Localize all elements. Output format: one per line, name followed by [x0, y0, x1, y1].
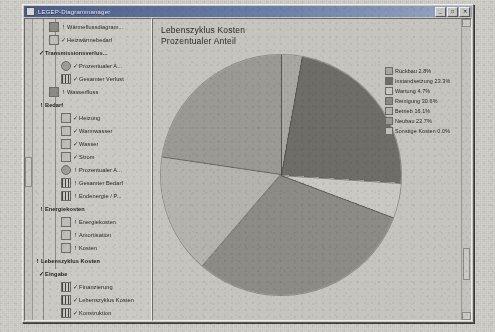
tree-item-label: Amortisation	[79, 232, 111, 238]
tree-body: !Wärmeflussdiagram...✓Heizwärmebedarf✓Tr…	[33, 19, 151, 320]
tree-item-label: Bedarf	[45, 102, 63, 108]
tree-item[interactable]: ✓Heizwärmebedarf	[33, 33, 151, 46]
tree-item-label: Kosten	[79, 245, 97, 251]
tree-scrollbar-thumb[interactable]	[25, 157, 32, 186]
tree-item[interactable]: ✓Finanzierung	[33, 280, 151, 293]
pie-icon	[61, 61, 71, 71]
chart-title-line2: Prozentualer Anteil	[161, 36, 245, 47]
tree-item[interactable]: !Energiekosten	[33, 215, 151, 228]
check-icon: ✓	[73, 62, 78, 69]
curve-icon	[49, 35, 59, 45]
bars-icon	[61, 308, 71, 318]
scroll-up-arrow-icon[interactable]	[462, 19, 471, 27]
tree-item[interactable]: ✓Eingabe	[33, 267, 151, 280]
pie-icon	[61, 165, 71, 175]
legend-swatch	[385, 107, 393, 115]
chart-scrollbar-thumb[interactable]	[463, 248, 470, 280]
exclamation-icon: !	[61, 89, 66, 95]
tree-item-label: Lebenszyklus Kosten	[79, 297, 134, 303]
tree-item-label: Wasser	[79, 141, 98, 147]
exclamation-icon: !	[73, 180, 78, 186]
diagram-tree-panel: !Wärmeflussdiagram...✓Heizwärmebedarf✓Tr…	[24, 18, 152, 321]
legend-label: Rückbau 2.8%	[395, 68, 431, 74]
legend-label: Neubau 22.7%	[395, 118, 432, 124]
legend-swatch	[385, 127, 393, 135]
tree-item[interactable]: ✓Transmissionsverlus...	[33, 46, 151, 59]
chart-vertical-scrollbar[interactable]	[461, 19, 471, 320]
tree-item-label: Heizwärmebedarf	[67, 37, 112, 43]
tree-item-label: Energiekosten	[79, 219, 116, 225]
legend-item: Rückbau 2.8%	[385, 66, 465, 75]
legend-label: Betrieb 16.1%	[395, 108, 430, 114]
check-icon: ✓	[73, 153, 78, 160]
legend-label: Wartung 4.7%	[395, 88, 430, 94]
exclamation-icon: !	[61, 24, 66, 30]
tree-item[interactable]: ✓Gesamter Verlust	[33, 72, 151, 85]
window-controls: _ □ ✕	[435, 7, 470, 17]
tree-item[interactable]: !Prozentualer A...	[33, 163, 151, 176]
tree-item-label: Endenergie / P...	[79, 193, 122, 199]
tree-item[interactable]: !Energiekosten	[33, 202, 151, 215]
check-icon: ✓	[73, 114, 78, 121]
tree-item[interactable]: ✓Jährliche Kosten	[33, 319, 151, 320]
application-window: LEGEP-Diagrammanager _ □ ✕ !Wärmeflussdi…	[22, 4, 474, 323]
maximize-button[interactable]: □	[447, 7, 458, 17]
tree-item[interactable]: ✓Wasser	[33, 137, 151, 150]
minimize-button[interactable]: _	[435, 7, 446, 17]
tree-vertical-scrollbar[interactable]	[25, 19, 33, 320]
check-icon: ✓	[73, 140, 78, 147]
chart-legend: Rückbau 2.8%Instandsetzung 23.3%Wartung …	[385, 66, 465, 135]
bar-icon	[61, 191, 71, 201]
tree-item[interactable]: ✓Warmwasser	[33, 124, 151, 137]
scroll-down-arrow-icon[interactable]	[462, 312, 471, 320]
exclamation-icon: !	[73, 193, 78, 199]
legend-swatch	[385, 67, 393, 75]
tree-item-label: Wasserfluss	[67, 89, 98, 95]
legend-item: Sonstige Kosten 0.0%	[385, 126, 465, 135]
tree-item[interactable]: ✓Konstruktion	[33, 306, 151, 319]
tree-item-label: Prozentualer A...	[79, 63, 122, 69]
curve-icon	[61, 243, 71, 253]
tree-item[interactable]: !Kosten	[33, 241, 151, 254]
check-icon: ✓	[73, 296, 78, 303]
tree-item[interactable]: ✓Prozentualer A...	[33, 59, 151, 72]
close-button[interactable]: ✕	[459, 7, 470, 17]
tree-item-label: Energiekosten	[45, 206, 85, 212]
pie-chart	[161, 55, 409, 303]
tree-item[interactable]: !Bedarf	[33, 98, 151, 111]
tree-item[interactable]: !Amortisation	[33, 228, 151, 241]
legend-label: Instandsetzung 23.3%	[395, 78, 450, 84]
exclamation-icon: !	[35, 258, 40, 264]
bolt-icon	[61, 152, 71, 162]
app-icon	[26, 7, 35, 16]
h-icon	[61, 113, 71, 123]
tree-item-label: Konstruktion	[79, 310, 111, 316]
tree-item[interactable]: !Lebenszyklus Kosten	[33, 254, 151, 267]
chart-panel: Lebenszyklus Kosten Prozentualer Anteil …	[152, 18, 472, 321]
rg-icon	[61, 139, 71, 149]
check-icon: ✓	[73, 127, 78, 134]
tree-item-label: Eingabe	[45, 271, 67, 277]
tree-item[interactable]: ✓Strom	[33, 150, 151, 163]
tree-item[interactable]: !Endenergie / P...	[33, 189, 151, 202]
tree-item[interactable]: ✓Heizung	[33, 111, 151, 124]
tree-item[interactable]: ✓Lebenszyklus Kosten	[33, 293, 151, 306]
tree-item-label: Finanzierung	[79, 284, 113, 290]
legend-swatch	[385, 117, 393, 125]
bar-icon	[61, 178, 71, 188]
window-titlebar[interactable]: LEGEP-Diagrammanager _ □ ✕	[24, 6, 472, 17]
chart-title-line1: Lebenszyklus Kosten	[161, 25, 245, 35]
check-icon: ✓	[61, 36, 66, 43]
check-icon: ✓	[73, 283, 78, 290]
legend-item: Reinigung 30.6%	[385, 96, 465, 105]
legend-swatch	[385, 87, 393, 95]
exclamation-icon: !	[39, 206, 44, 212]
check-icon: ✓	[39, 49, 44, 56]
tree-item[interactable]: !Wasserfluss	[33, 85, 151, 98]
tree-item[interactable]: !Wärmeflussdiagram...	[33, 20, 151, 33]
legend-label: Reinigung 30.6%	[395, 98, 438, 104]
tree-item[interactable]: !Gesamter Bedarf	[33, 176, 151, 189]
check-icon: ✓	[73, 309, 78, 316]
screenshot-canvas: LEGEP-Diagrammanager _ □ ✕ !Wärmeflussdi…	[0, 0, 495, 332]
chart-icon	[49, 87, 59, 97]
